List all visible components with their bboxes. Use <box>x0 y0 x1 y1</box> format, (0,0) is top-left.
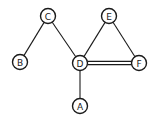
edge-e-d <box>84 22 105 56</box>
node-b: B <box>13 55 28 70</box>
node-e: E <box>102 9 117 24</box>
node-label: F <box>136 59 141 69</box>
node-label: A <box>77 102 84 112</box>
edge-c-d <box>52 22 76 57</box>
node-label: C <box>45 12 51 22</box>
node-f: F <box>132 56 147 71</box>
node-label: E <box>106 12 112 22</box>
node-label: D <box>77 59 84 69</box>
graph-diagram: ABCDEF <box>0 0 157 123</box>
node-label: B <box>17 58 23 68</box>
node-d: D <box>73 56 88 71</box>
node-c: C <box>41 9 56 24</box>
edge-c-b <box>24 22 44 55</box>
node-a: A <box>73 99 88 114</box>
edge-e-f <box>113 22 135 56</box>
